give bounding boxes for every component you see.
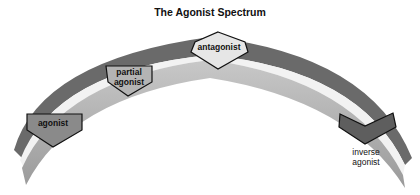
inverse-agonist-label-line2: agonist: [352, 157, 380, 167]
agonist-label: agonist: [38, 118, 68, 128]
inverse-agonist-label-line1: inverse: [352, 147, 380, 157]
partial-agonist-label-line2: agonist: [114, 77, 144, 87]
partial-agonist-label-line1: partial: [116, 67, 142, 77]
agonist-spectrum-diagram: agonist partial agonist antagonist inver…: [0, 0, 420, 195]
antagonist-label: antagonist: [198, 42, 241, 52]
